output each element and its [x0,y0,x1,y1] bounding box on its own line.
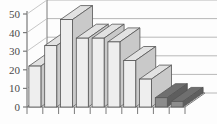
y-tick-label: 0 [15,101,21,113]
chart-canvas: 01020304050 [0,0,217,124]
bar-front-face [92,38,104,107]
bar-front-face [45,46,57,107]
bar-front-face [29,66,41,107]
y-tick-label: 20 [9,64,21,76]
bar-front-face [139,79,151,107]
bar-front-face [108,42,120,107]
bar-chart-3d: 01020304050 [0,0,217,124]
y-tick-label: 40 [9,27,21,39]
y-tick-label: 50 [9,8,21,20]
y-tick-depth-line [27,19,47,33]
bar-front-face [124,61,136,108]
y-tick-label: 10 [9,82,21,94]
bar-front-face [155,98,167,107]
y-tick-label: 30 [9,45,21,57]
bar-front-face [171,101,183,107]
y-tick-depth-line [27,0,47,14]
bar-front-face [76,38,88,107]
bar-front-face [60,20,72,107]
y-tick-depth-line [27,37,47,51]
